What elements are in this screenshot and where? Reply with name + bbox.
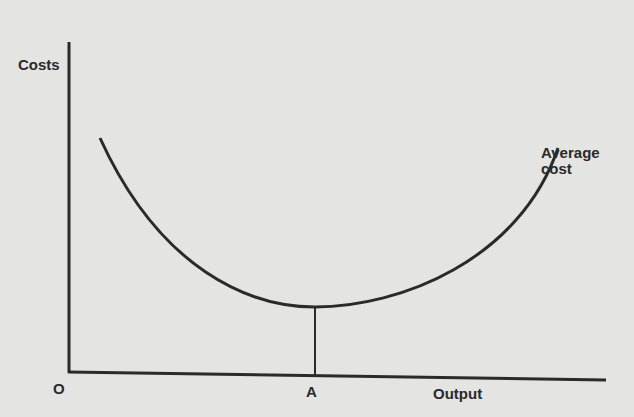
x-axis-label: Output [433, 386, 482, 402]
chart-canvas [0, 0, 634, 417]
curve-label: Average cost [541, 145, 600, 177]
average-cost-curve [100, 138, 558, 307]
curve-label-line1: Average [541, 145, 600, 161]
point-a-label: A [306, 384, 317, 400]
origin-label: O [53, 381, 65, 397]
y-axis-label: Costs [18, 57, 60, 73]
curve-label-line2: cost [541, 161, 600, 177]
x-axis [68, 372, 606, 380]
